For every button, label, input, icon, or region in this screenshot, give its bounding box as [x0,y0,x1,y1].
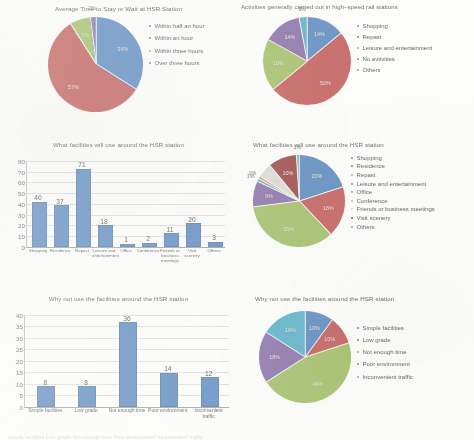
legend-label: No avtivities [363,56,395,62]
legend-row[interactable]: Within half an hour [149,23,205,29]
legend-row[interactable]: Leisure and entertainment [351,181,435,187]
pie-facilities: 20%18%35%9%1%1%5%10%1% [253,155,345,247]
pie-slice-label: 57% [68,84,79,90]
legend-label: Leisure and entertainment [357,181,427,187]
pie-slice-label: 10% [282,170,293,176]
y-axis-tick-label: 5 [20,392,23,399]
legend-marker-icon [357,376,359,378]
plot-area: 05101520253035408Simple facilities8Low g… [24,315,229,408]
pie-slice-label: 35% [283,226,294,232]
chart-facilities-bar: What facilities will use around the HSR … [0,142,237,290]
legend-marker-icon [351,208,353,210]
legend-marker-icon [357,36,359,38]
legend-label: Within half an hour [155,23,205,29]
gridline [27,161,225,162]
chart-avg-time-pie: Average Time to Stay or Wait at HSR Stat… [0,6,237,136]
bar [201,377,219,407]
legend-label: Inconvenient traffic [363,374,413,380]
bar-value-label: 2 [146,235,150,242]
legend-label: Over three hours [155,60,200,66]
bar-value-label: 40 [34,194,41,201]
x-axis-tick-label: Residence [48,248,72,253]
pie-slice-label: 5% [272,178,280,184]
legend-label: Poor environment [363,361,410,367]
gridline [27,182,225,183]
legend-marker-icon [149,62,151,64]
legend-marker-icon [357,58,359,60]
legend-marker-icon [149,37,151,39]
pie-slice-label: 34% [118,46,129,52]
legend-row[interactable]: Office [351,189,435,195]
bar [120,244,135,247]
legend-row[interactable]: Shopping [351,155,435,161]
legend-label: Conference [357,198,388,204]
pie-slice-label: 50% [320,80,331,86]
chart-title: Why not use the facilities around the HS… [0,296,237,303]
legend-marker-icon [351,183,353,185]
x-axis-tick-label: Office [114,248,138,253]
legend-activities: ShoppingRepastLeisure and entertainmentN… [351,17,432,79]
chart-title: What facilities will use around the HSR … [237,142,474,149]
chart-facilities-pie: What facilities will use around the HSR … [237,142,474,290]
legend-row[interactable]: Repast [357,34,432,40]
pie-slice-divider [266,356,305,381]
legend-row[interactable]: Residence [351,163,435,169]
pie-slice-divider [254,200,300,207]
y-axis-tick-label: 50 [18,190,25,197]
bar [78,386,96,406]
x-axis-tick-label: Visit scenery [180,248,204,258]
legend-label: Not enough time [363,349,407,355]
pie-slice-divider [299,186,343,201]
x-axis-tick-label: Poor environment [148,408,188,414]
bar [186,223,201,247]
legend-label: Within an hour [155,35,194,41]
legend-row[interactable]: No avtivities [357,56,432,62]
bar-value-label: 8 [84,379,88,386]
plot-area: 0102030405060708040Shopping37Residence71… [26,161,225,248]
legend-row[interactable]: Inconvenient traffic [357,374,413,380]
x-axis-tick-label: Leisure and entertainment [92,248,116,258]
legend-avg-time: Within half an hourWithin an hourWithin … [143,17,205,73]
legend-row[interactable]: Repast [351,172,435,178]
bar-value-label: 71 [78,161,85,168]
y-axis-tick-label: 20 [18,222,25,229]
legend-marker-icon [351,191,353,193]
legend-row[interactable]: Low grade [357,337,413,343]
legend-row[interactable]: Friends or business meetings [351,206,435,212]
bar-value-label: 14 [164,365,171,372]
legend-row[interactable]: Others [351,224,435,230]
pie-slice-label: 10% [309,325,320,331]
legend-row[interactable]: Simple facilities [357,325,413,331]
legend-row[interactable]: Shopping [357,23,432,29]
pie-slice-label: 16% [285,327,296,333]
legend-row[interactable]: Leisure and entertainment [357,45,432,51]
pie-slice-label: 18% [269,354,280,360]
chart-title: What facilities will use around the HSR … [0,142,237,149]
pie-slice-label: 19% [273,60,284,66]
bar [76,169,91,247]
bar-value-label: 8 [44,379,48,386]
legend-row[interactable]: Conference [351,198,435,204]
legend-label: Shopping [363,23,388,29]
bar [208,242,223,247]
legend-row[interactable]: Visit scenery [351,215,435,221]
legend-marker-icon [351,200,353,202]
legend-row[interactable]: Not enough time [357,349,413,355]
bar-value-label: 36 [123,315,130,322]
bar [160,373,178,407]
legend-row[interactable]: Others [357,67,432,73]
pie-slice-divider [269,39,308,61]
pie-slice-label: 20% [311,173,322,179]
bar-value-label: 37 [56,198,63,205]
legend-row[interactable]: Poor environment [357,361,413,367]
pie-slice-label: 3% [298,6,306,12]
legend-row[interactable]: Within three hours [149,48,205,54]
bar-value-label: 1 [124,236,128,243]
legend-label: Low grade [363,337,391,343]
pie-slice-label: 46% [312,381,323,387]
legend-row[interactable]: Within an hour [149,35,205,41]
x-axis-tick-label: Friends or business meetings [158,248,182,263]
bar [54,205,69,247]
legend-row[interactable]: Over three hours [149,60,205,66]
y-axis-tick-label: 60 [18,179,25,186]
